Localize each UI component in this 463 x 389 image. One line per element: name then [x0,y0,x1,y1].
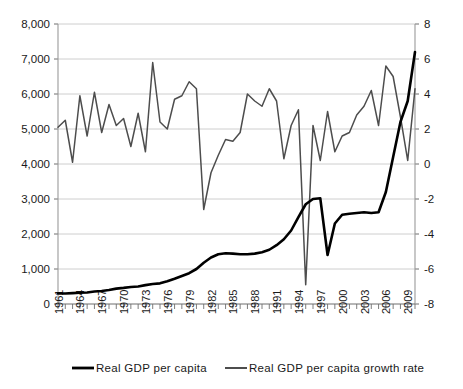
x-axis-tick-label: 1997 [315,290,327,314]
gridlines [58,24,415,269]
x-axis-tick-label: 2000 [337,290,349,314]
y-axis-left-tick-label: 1,000 [21,263,50,275]
y-axis-right-tick-label: -4 [424,228,435,240]
x-axis-tick-label: 1988 [249,290,261,314]
y-axis-right-tick-label: 4 [424,88,431,100]
y-axis-right-labels: -8-6-4-202468 [424,18,435,310]
x-axis-tick-label: 1991 [271,290,283,314]
y-axis-right-tick-label: -8 [424,298,434,310]
y-axis-left-tick-label: 2,000 [21,228,50,240]
y-axis-left-ticks [54,24,58,304]
series-line-gdp-per-capita [58,52,415,294]
legend-label: Real GDP per capita growth rate [249,362,424,374]
y-axis-right-tick-label: 6 [424,53,430,65]
x-axis-tick-label: 1994 [293,290,305,314]
y-axis-left-tick-label: 0 [44,298,50,310]
x-axis-tick-label: 1979 [184,290,196,314]
x-axis-tick-label: 1982 [206,290,218,314]
x-axis-tick-label: 1973 [140,290,152,314]
y-axis-right-tick-label: -2 [424,193,434,205]
chart-legend: Real GDP per capitaReal GDP per capita g… [72,362,424,374]
y-axis-right-tick-label: 8 [424,18,430,30]
y-axis-left-tick-label: 6,000 [21,88,50,100]
y-axis-right-tick-label: -6 [424,263,434,275]
legend-label: Real GDP per capita [96,362,207,374]
y-axis-right-tick-label: 2 [424,123,430,135]
y-axis-right-tick-label: 0 [424,158,430,170]
x-axis-tick-label: 2009 [402,290,414,314]
y-axis-right-ticks [415,24,419,304]
y-axis-left-labels: 01,0002,0003,0004,0005,0006,0007,0008,00… [21,18,50,310]
x-axis-tick-label: 2003 [359,290,371,314]
x-axis-tick-label: 1967 [96,290,108,314]
y-axis-left-tick-label: 8,000 [21,18,50,30]
x-axis-tick-label: 1970 [118,290,130,314]
x-axis-tick-label: 1976 [162,290,174,314]
chart-container: 01,0002,0003,0004,0005,0006,0007,0008,00… [0,0,463,389]
y-axis-left-tick-label: 7,000 [21,53,50,65]
x-axis-tick-label: 1985 [227,290,239,314]
x-axis-tick-label: 2006 [380,290,392,314]
y-axis-left-tick-label: 5,000 [21,123,50,135]
y-axis-left-tick-label: 4,000 [21,158,50,170]
gdp-per-capita-chart: 01,0002,0003,0004,0005,0006,0007,0008,00… [0,0,463,389]
y-axis-left-tick-label: 3,000 [21,193,50,205]
series-line-growth-rate [58,63,415,285]
chart-title-ghost [8,0,338,11]
x-axis-labels: 1961196419671970197319761979198219851988… [53,290,415,314]
